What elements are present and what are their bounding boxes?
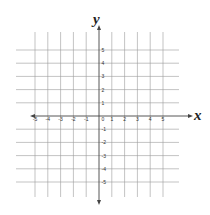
x-tick-label: 2 xyxy=(123,116,126,122)
x-axis-label: x xyxy=(193,107,202,123)
y-tick-label: -2 xyxy=(102,139,107,145)
coordinate-plane: -5-4-3-2-101234554321-1-2-3-4-5 x y xyxy=(0,0,210,215)
x-tick-label: -4 xyxy=(46,116,51,122)
y-tick-label: 2 xyxy=(102,87,105,93)
x-tick-label: 0 xyxy=(102,116,105,122)
y-tick-label: -3 xyxy=(102,153,107,159)
x-axis-right-arrow-icon xyxy=(188,114,193,118)
y-tick-label: -1 xyxy=(102,126,107,132)
x-tick-label: 4 xyxy=(149,116,152,122)
x-tick-label: 3 xyxy=(136,116,139,122)
y-tick-label: -5 xyxy=(102,179,107,185)
y-axis-label: y xyxy=(91,11,100,27)
x-tick-label: 5 xyxy=(162,116,165,122)
y-tick-label: 1 xyxy=(102,100,105,106)
x-tick-label: -1 xyxy=(84,116,89,122)
y-tick-label: 4 xyxy=(102,60,105,66)
y-axis-down-arrow-icon xyxy=(97,200,101,205)
x-tick-label: -5 xyxy=(33,116,38,122)
x-tick-label: -3 xyxy=(58,116,63,122)
y-tick-label: 3 xyxy=(102,73,105,79)
y-tick-label: -4 xyxy=(102,166,107,172)
y-tick-label: 5 xyxy=(102,47,105,53)
grid-lines xyxy=(16,32,179,197)
x-tick-label: 1 xyxy=(110,116,113,122)
x-tick-label: -2 xyxy=(71,116,76,122)
